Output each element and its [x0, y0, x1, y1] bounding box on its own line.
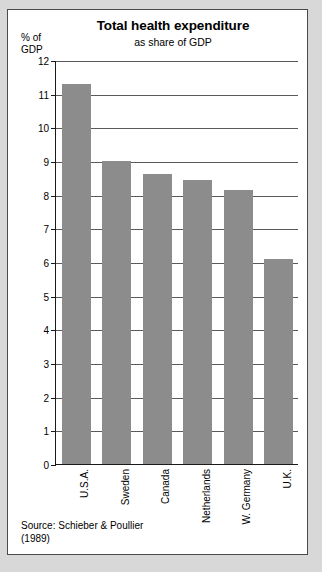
y-tick-label: 2: [43, 392, 49, 403]
bar: [224, 190, 253, 464]
y-tick-label: 10: [38, 123, 49, 134]
y-tick-label: 12: [38, 56, 49, 67]
chart-page: Total health expenditure as share of GDP…: [0, 0, 322, 572]
plot-area: 0123456789101112: [55, 61, 298, 465]
y-axis-caption: % of GDP: [21, 32, 43, 55]
chart-title: Total health expenditure: [48, 18, 298, 33]
y-tick-label: 3: [43, 359, 49, 370]
bars-layer: [56, 61, 298, 464]
y-tick-label: 6: [43, 258, 49, 269]
y-tick-label: 9: [43, 157, 49, 168]
x-axis-label: U.S.A.: [79, 469, 90, 498]
y-tick-label: 7: [43, 224, 49, 235]
chart-subtitle: as share of GDP: [48, 36, 298, 48]
x-axis-label: Netherlands: [201, 469, 212, 523]
bar: [183, 180, 212, 464]
y-tick-label: 11: [39, 89, 49, 100]
y-tick-label: 1: [43, 426, 49, 437]
source-note: Source: Schieber & Poullier (1989): [21, 520, 143, 545]
chart-card: Total health expenditure as share of GDP…: [7, 9, 308, 555]
y-tick-label: 4: [43, 325, 49, 336]
bar: [143, 174, 172, 464]
bar: [62, 84, 91, 464]
x-axis-label: Canada: [160, 469, 171, 504]
x-axis-label: W. Germany: [241, 469, 252, 525]
y-tick-label: 0: [43, 460, 49, 471]
x-axis-label: U.K.: [282, 469, 293, 488]
bar: [102, 161, 131, 464]
y-tick-label: 5: [43, 291, 49, 302]
plot-wrapper: 0123456789101112 U.S.A.SwedenCanadaNethe…: [26, 61, 298, 465]
x-axis-label: Sweden: [120, 469, 131, 505]
y-tick-label: 8: [43, 190, 49, 201]
bar: [264, 259, 293, 464]
